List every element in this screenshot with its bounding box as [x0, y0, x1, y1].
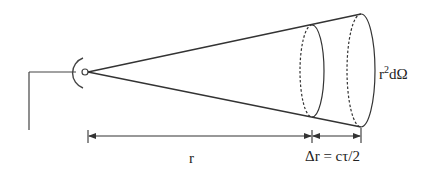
- antenna-feed-icon: [82, 69, 88, 75]
- range-label: r: [189, 150, 194, 166]
- range-cell-far-face: [347, 14, 375, 127]
- beam-cone: [88, 14, 361, 127]
- area-label: r2dΩ: [379, 64, 408, 82]
- antenna-dish-icon: [73, 58, 83, 88]
- range-resolution-label: Δr = cτ/2: [305, 148, 360, 164]
- range-cell-near-face: [300, 25, 324, 117]
- feed-wire: [29, 72, 76, 130]
- radar-volume-diagram: r Δr = cτ/2 r2dΩ: [0, 0, 443, 173]
- dimension-lines: [88, 128, 361, 143]
